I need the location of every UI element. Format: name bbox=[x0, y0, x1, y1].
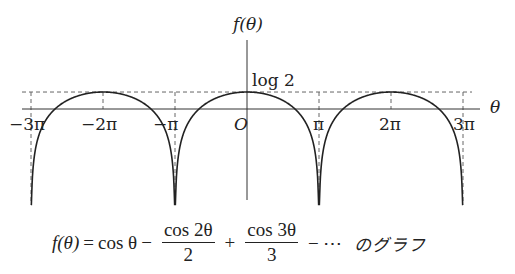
x-axis-label: θ bbox=[490, 97, 500, 117]
x-tick-label: −3π bbox=[9, 114, 45, 134]
y-axis-label: f(θ) bbox=[231, 14, 263, 34]
log2-label: log 2 bbox=[252, 70, 295, 90]
x-tick-label: −π bbox=[153, 114, 178, 134]
fraction-1-numerator: cos 2θ bbox=[162, 219, 215, 243]
caption-equals: = bbox=[83, 232, 94, 254]
caption-minus: − bbox=[141, 232, 152, 254]
fraction-2-denominator: 3 bbox=[267, 243, 277, 267]
caption-fraction-1: cos 2θ 2 bbox=[162, 219, 215, 267]
caption-fraction-2: cos 3θ 3 bbox=[245, 219, 298, 267]
function-plot: −3π−2π−πOπ2π3π θ f(θ) log 2 bbox=[0, 0, 515, 214]
x-tick-label: 3π bbox=[453, 114, 475, 134]
x-tick-label: O bbox=[234, 114, 248, 134]
x-tick-label: −2π bbox=[81, 114, 117, 134]
fraction-2-numerator: cos 3θ bbox=[245, 219, 298, 243]
caption-formula: f(θ) = cos θ − cos 2θ 2 + cos 3θ 3 − ⋯ の… bbox=[52, 214, 426, 272]
caption-plus: + bbox=[225, 232, 236, 254]
caption-minus-ellipsis: − ⋯ bbox=[308, 232, 342, 255]
caption-lhs: f(θ) bbox=[52, 232, 79, 254]
caption: f(θ) = cos θ − cos 2θ 2 + cos 3θ 3 − ⋯ の… bbox=[0, 214, 515, 272]
caption-term1: cos θ bbox=[98, 232, 137, 254]
x-tick-labels: −3π−2π−πOπ2π3π bbox=[9, 114, 475, 134]
caption-suffix: のグラフ bbox=[354, 231, 426, 256]
x-tick-label: π bbox=[313, 114, 324, 134]
x-tick-label: 2π bbox=[379, 114, 401, 134]
fraction-1-denominator: 2 bbox=[184, 243, 194, 267]
